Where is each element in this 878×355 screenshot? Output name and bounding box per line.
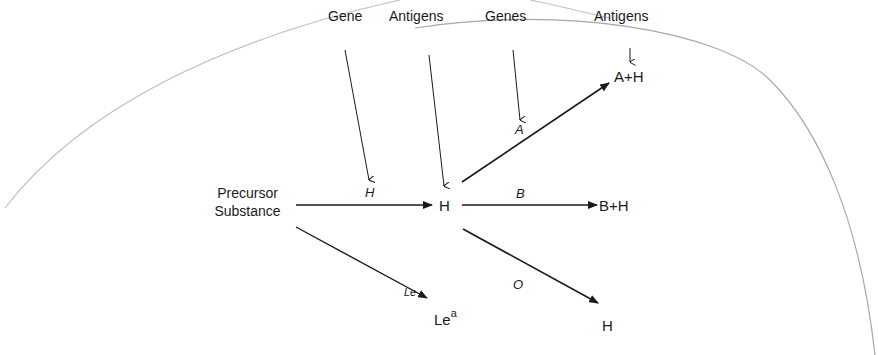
arrow-h-to-a-plus-h	[462, 83, 609, 182]
background-curve-inner	[415, 19, 875, 355]
arrow-h-to-h	[463, 229, 598, 303]
gene-le-label: Le	[404, 287, 416, 298]
genes-a-pointer	[513, 50, 520, 120]
gene-h-label: H	[365, 186, 374, 199]
gene-b-label: B	[516, 187, 525, 200]
gene-o-label: O	[513, 278, 523, 291]
precursor-line2: Substance	[200, 202, 295, 220]
background-curve-outer-left	[5, 0, 400, 208]
lea-superscript: a	[451, 307, 457, 319]
lea-base: Le	[434, 311, 451, 328]
antigens-label-right: Antigens	[594, 9, 648, 23]
antigens-label-left: Antigens	[389, 9, 443, 23]
diagram-canvas	[0, 0, 878, 355]
gene-a-label: A	[515, 123, 524, 136]
h-bottom-node: H	[602, 318, 613, 333]
lea-node: Lea	[434, 308, 457, 327]
a-plus-h-node: A+H	[614, 69, 644, 84]
antigens-h-pointer	[429, 55, 444, 186]
h-center-node: H	[439, 198, 450, 213]
gene-h-pointer	[345, 50, 369, 180]
b-plus-h-node: B+H	[599, 198, 629, 213]
gene-label: Gene	[328, 9, 362, 23]
precursor-substance-node: Precursor Substance	[200, 184, 295, 220]
genes-label: Genes	[485, 9, 526, 23]
precursor-line1: Precursor	[200, 184, 295, 202]
